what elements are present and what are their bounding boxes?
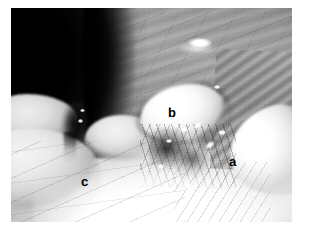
metallic-glint xyxy=(196,193,202,197)
central-bright-mass xyxy=(137,79,231,146)
annotation-label-b: b xyxy=(168,106,176,119)
figure-root: b a c xyxy=(0,0,309,234)
tissue-crevice-tail xyxy=(64,132,75,162)
metallic-glint xyxy=(78,119,83,122)
metallic-glint xyxy=(166,139,172,143)
metallic-glint xyxy=(192,121,203,130)
vessel-tracery xyxy=(73,12,292,123)
dark-cavity-edge xyxy=(84,8,146,158)
tissue-crevice xyxy=(56,101,92,151)
hilar-strands xyxy=(140,124,236,188)
left-upper-lobe xyxy=(11,94,78,150)
central-mass-rim xyxy=(131,74,237,151)
dark-cavity-region xyxy=(11,8,135,158)
metallic-glint xyxy=(158,164,165,169)
specular-highlight xyxy=(188,38,212,48)
fibrous-striations xyxy=(67,8,292,132)
photo-vignette xyxy=(11,8,292,222)
right-striated-tissue xyxy=(210,48,292,173)
metallic-glint xyxy=(180,127,188,133)
lower-right-strands xyxy=(174,162,270,222)
bottom-overexposed-glow xyxy=(33,149,292,222)
annotation-label-c: c xyxy=(81,175,88,188)
upper-serosal-sheet xyxy=(68,8,292,132)
hilar-vessel-cluster xyxy=(149,128,222,179)
metallic-glint xyxy=(185,183,192,188)
right-bright-lobe xyxy=(222,98,292,205)
photo-grain xyxy=(11,8,292,222)
lower-left-vessels xyxy=(11,141,185,222)
metallic-glint xyxy=(204,139,215,149)
photo-base-wash xyxy=(11,8,292,222)
mid-lobe xyxy=(84,115,157,162)
metallic-glint xyxy=(218,130,225,135)
endoscopic-photograph xyxy=(11,8,292,222)
annotation-label-a: a xyxy=(229,155,236,168)
metallic-glint xyxy=(214,85,220,89)
metallic-glint xyxy=(80,109,86,113)
specular-highlight-halo xyxy=(180,44,214,53)
